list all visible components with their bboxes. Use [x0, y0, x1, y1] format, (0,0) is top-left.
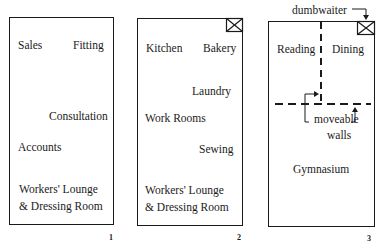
diagram-overlay — [0, 0, 386, 250]
dumbwaiter-shaft-icon — [358, 22, 375, 35]
moveable-walls-left-arrow-icon — [305, 91, 319, 122]
dumbwaiter-arrow-icon — [352, 9, 369, 20]
dumbwaiter-shaft-icon — [227, 19, 243, 32]
moveable-walls-right-arrow-icon — [351, 107, 358, 122]
